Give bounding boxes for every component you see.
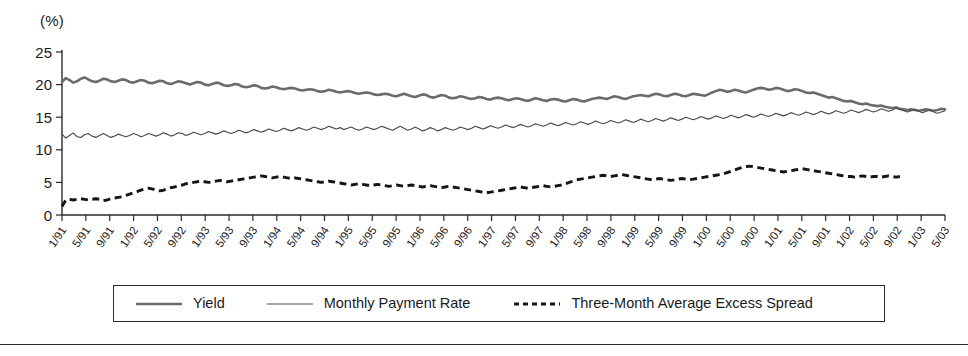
x-tick-label: 1/91	[46, 224, 69, 249]
x-tick-label: 9/91	[94, 224, 117, 249]
x-tick-label: 9/93	[237, 224, 260, 249]
x-tick-label: 5/98	[571, 224, 594, 249]
x-tick-label: 1/03	[905, 224, 928, 249]
x-tick-label: 9/94	[308, 224, 331, 250]
series-line-yield	[62, 77, 945, 110]
series-line-monthly-payment-rate	[62, 108, 945, 138]
axis-tick-marks	[56, 52, 945, 221]
y-axis-tick-labels: 0510152025	[35, 44, 52, 224]
footer-rule	[0, 344, 968, 345]
x-tick-label: 5/96	[428, 224, 451, 249]
x-tick-label: 5/03	[929, 224, 952, 249]
x-tick-label: 5/99	[643, 224, 666, 249]
x-tick-label: 1/92	[118, 224, 141, 249]
x-tick-label: 5/91	[70, 224, 93, 249]
x-tick-label: 5/95	[356, 224, 379, 249]
legend-entry: Yield	[136, 296, 225, 311]
y-tick-label: 20	[35, 76, 52, 93]
x-tick-label: 1/96	[404, 224, 427, 249]
y-tick-label: 10	[35, 141, 52, 158]
y-tick-label: 25	[35, 44, 52, 61]
x-tick-label: 5/00	[714, 224, 737, 249]
x-tick-label: 9/98	[595, 224, 618, 249]
series-line-three-month-average-excess-spread	[62, 166, 900, 206]
x-tick-label: 1/02	[834, 224, 857, 249]
y-tick-label: 5	[44, 174, 52, 191]
x-tick-label: 1/97	[476, 224, 499, 249]
x-tick-label: 9/02	[881, 224, 904, 249]
data-series-group	[62, 77, 945, 206]
legend-label: Yield	[193, 296, 225, 311]
x-tick-label: 1/00	[690, 224, 713, 249]
x-tick-label: 9/96	[452, 224, 475, 249]
x-tick-label: 1/01	[762, 224, 785, 249]
y-tick-label: 15	[35, 109, 52, 126]
chart-figure: (%) 0510152025 1/915/919/911/925/929/921…	[0, 0, 968, 356]
x-tick-label: 9/95	[380, 224, 403, 249]
x-tick-label: 5/01	[786, 224, 809, 249]
legend-label: Three-Month Average Excess Spread	[571, 296, 813, 311]
x-tick-label: 9/01	[810, 224, 833, 249]
legend-entry: Three-Month Average Excess Spread	[514, 296, 813, 311]
legend-swatch-icon	[267, 298, 313, 310]
x-tick-label: 9/97	[523, 224, 546, 249]
x-tick-label: 1/95	[332, 224, 355, 249]
x-tick-label: 5/93	[213, 224, 236, 249]
x-axis-tick-labels: 1/915/919/911/925/929/921/935/939/931/94…	[46, 224, 952, 250]
legend-label: Monthly Payment Rate	[324, 296, 471, 311]
x-tick-label: 5/94	[285, 224, 308, 250]
x-tick-label: 1/93	[189, 224, 212, 249]
x-tick-label: 5/97	[499, 224, 522, 249]
x-tick-label: 9/99	[666, 224, 689, 249]
legend-entry: Monthly Payment Rate	[267, 296, 471, 311]
x-tick-label: 1/98	[547, 224, 570, 249]
x-tick-label: 5/02	[857, 224, 880, 249]
x-tick-label: 9/00	[738, 224, 761, 249]
x-tick-label: 5/92	[141, 224, 164, 249]
x-tick-label: 1/99	[619, 224, 642, 249]
x-tick-label: 9/92	[165, 224, 188, 249]
chart-plot-area: 0510152025 1/915/919/911/925/929/921/935…	[0, 0, 968, 285]
legend-swatch-icon	[136, 298, 182, 310]
x-tick-label: 1/94	[261, 224, 284, 250]
y-tick-label: 0	[44, 207, 52, 224]
chart-legend: YieldMonthly Payment RateThree-Month Ave…	[113, 285, 885, 322]
legend-swatch-icon	[514, 298, 560, 310]
